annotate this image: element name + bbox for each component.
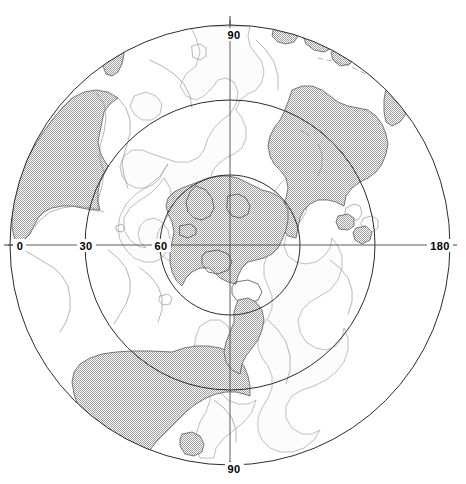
polar-map-svg: 90 90 0 30 60 180 xyxy=(0,0,466,484)
polar-map-container: 90 90 0 30 60 180 xyxy=(0,0,466,484)
label-right-180: 180 xyxy=(430,240,450,252)
label-bottom-90: 90 xyxy=(227,463,240,475)
label-top-90: 90 xyxy=(227,29,240,41)
label-left-30: 30 xyxy=(79,240,92,252)
shaded-island-east1 xyxy=(336,214,354,230)
label-left-0: 0 xyxy=(17,240,24,252)
label-left-60: 60 xyxy=(154,240,167,252)
